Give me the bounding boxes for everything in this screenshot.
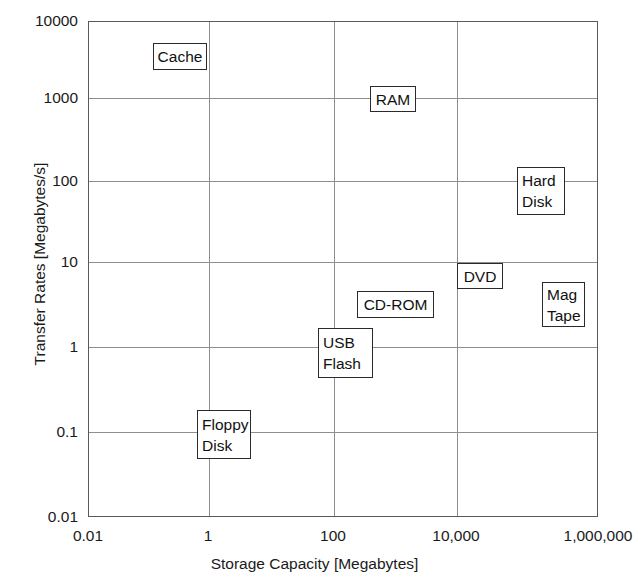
- y-tick-label-0-01: 0.01: [8, 509, 78, 525]
- x-axis-title: Storage Capacity [Megabytes]: [0, 555, 629, 573]
- data-point-label: Cache: [158, 46, 203, 67]
- x-tick-label-1000000: 1,000,000: [538, 528, 637, 544]
- data-point-floppy-disk: Floppy Disk: [197, 410, 251, 459]
- data-point-mag-tape: Mag Tape: [542, 282, 585, 327]
- data-point-usb-flash: USB Flash: [318, 328, 373, 378]
- data-point-label: Floppy: [202, 414, 246, 435]
- data-point-label: Disk: [202, 435, 246, 456]
- data-point-cache: Cache: [153, 43, 207, 70]
- data-point-label: USB: [323, 332, 368, 353]
- data-point-label: CD-ROM: [364, 294, 428, 315]
- x-tick-text: 100: [320, 527, 346, 544]
- x-tick-text: 1: [204, 527, 213, 544]
- y-tick-text: 1: [69, 338, 78, 355]
- gridline-horizontal: [89, 432, 597, 433]
- y-tick-text: 100: [52, 172, 78, 189]
- gridline-horizontal: [89, 262, 597, 263]
- x-tick-label-10000: 10,000: [396, 528, 516, 544]
- x-tick-label-100: 100: [273, 528, 393, 544]
- data-point-label: RAM: [376, 89, 410, 110]
- y-tick-text: 0.1: [56, 423, 78, 440]
- y-tick-text: 10000: [35, 12, 78, 29]
- data-point-label: Mag: [547, 284, 580, 305]
- x-tick-text: 10,000: [432, 527, 479, 544]
- x-tick-label-0-01: 0.01: [28, 528, 148, 544]
- y-axis-title: Transfer Rates [Megabytes/s]: [31, 74, 49, 454]
- data-point-cd-rom: CD-ROM: [357, 291, 434, 318]
- y-tick-text: 0.01: [48, 508, 78, 525]
- data-point-dvd: DVD: [457, 263, 503, 289]
- x-tick-label-1: 1: [148, 528, 268, 544]
- data-point-label: Hard: [522, 170, 560, 191]
- gridline-horizontal: [89, 98, 597, 99]
- data-point-label: Tape: [547, 305, 580, 326]
- plot-area: Cache RAM Hard Disk DVD Mag Tape CD-ROM …: [88, 21, 598, 517]
- y-tick-text: 10: [61, 253, 78, 270]
- data-point-label: Disk: [522, 191, 560, 212]
- data-point-hard-disk: Hard Disk: [517, 167, 565, 215]
- data-point-label: DVD: [464, 266, 497, 287]
- x-tick-text: 0.01: [73, 527, 103, 544]
- x-tick-text: 1,000,000: [564, 527, 633, 544]
- y-tick-label-10000: 10000: [8, 13, 78, 29]
- data-point-ram: RAM: [370, 86, 416, 112]
- data-point-label: Flash: [323, 353, 368, 374]
- gridline-vertical: [334, 22, 335, 516]
